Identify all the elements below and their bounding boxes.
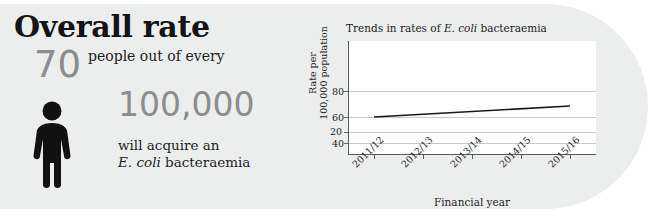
y-tick-label-20: 20 [330, 126, 342, 137]
x-tick-mark-2 [472, 155, 473, 159]
y-axis-label: Rate per 100,000 population [307, 13, 329, 133]
gridline-20 [348, 132, 596, 133]
person-pictogram-icon [30, 101, 74, 189]
infographic-panel: Overall rate 70 people out of every 100,… [0, 0, 654, 213]
acquire-statement: will acquire an E. coli bacteraemia [118, 137, 250, 171]
x-axis-label: Financial year [348, 196, 596, 208]
acquire-line-2-rest: bacteraemia [161, 154, 251, 170]
chart-title-prefix: Trends in rates of [346, 22, 444, 34]
x-tick-mark-0 [374, 155, 375, 159]
x-tick-mark-1 [423, 155, 424, 159]
rate-number: 70 [34, 46, 81, 83]
chart-title-suffix: bacteraemia [477, 22, 547, 34]
x-tick-mark-4 [570, 155, 571, 159]
y-tick-label-40: 40 [332, 138, 344, 149]
y-axis-label-line-1: Rate per [307, 52, 318, 94]
organism-name-italic: E. coli [118, 154, 161, 170]
chart-title: Trends in rates of E. coli bacteraemia [346, 22, 547, 34]
page-title: Overall rate [14, 10, 210, 44]
acquire-line-1: will acquire an [118, 137, 220, 153]
denominator-number: 100,000 [118, 88, 254, 121]
y-axis-line [348, 41, 349, 155]
chart-title-organism: E. coli [444, 22, 477, 34]
people-out-of-every-label: people out of every [88, 48, 225, 64]
overall-rate-block: Overall rate 70 people out of every 100,… [0, 4, 300, 209]
trends-line-chart: Trends in rates of E. coli bacteraemia R… [298, 4, 638, 209]
x-tick-mark-3 [521, 155, 522, 159]
y-tick-label-80: 80 [332, 86, 344, 97]
y-tick-label-60: 60 [332, 112, 344, 123]
y-axis-label-line-2: 100,000 population [318, 26, 329, 120]
